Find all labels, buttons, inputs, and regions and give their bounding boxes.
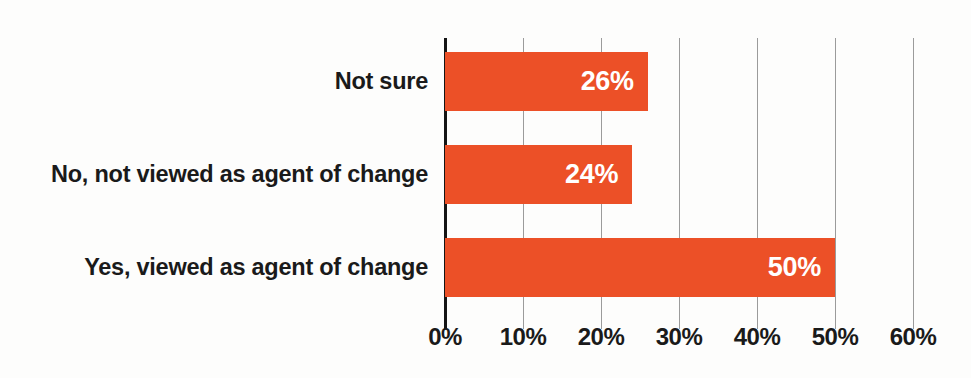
bar-value-label: 26%: [581, 68, 648, 95]
bar[interactable]: 26%: [445, 52, 648, 111]
bar-chart: 26%Not sure24%No, not viewed as agent of…: [0, 0, 971, 378]
x-tick-label: 0%: [428, 325, 462, 349]
bar[interactable]: 24%: [445, 145, 632, 204]
bar[interactable]: 50%: [445, 238, 835, 297]
x-tick-label: 20%: [578, 325, 625, 349]
x-tick-label: 40%: [734, 325, 781, 349]
gridline-60: [913, 38, 914, 329]
x-tick-label: 60%: [890, 325, 937, 349]
x-tick-label: 30%: [656, 325, 703, 349]
bar-value-label: 24%: [565, 161, 632, 188]
gridline-50: [835, 38, 836, 329]
category-label: Not sure: [0, 70, 428, 94]
category-label: Yes, viewed as agent of change: [0, 256, 428, 280]
x-tick-label: 10%: [500, 325, 547, 349]
bar-value-label: 50%: [768, 254, 835, 281]
category-label: No, not viewed as agent of change: [0, 163, 428, 187]
x-tick-label: 50%: [812, 325, 859, 349]
